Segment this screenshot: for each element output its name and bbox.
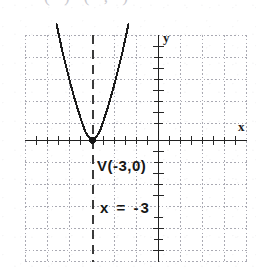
coordinate-plane [0, 0, 256, 273]
graph-figure: ( ) ( , ) [0, 0, 256, 273]
vertex-point [89, 137, 95, 143]
axis-of-symmetry-annotation: x = -3 [100, 199, 151, 216]
grid-lines [25, 35, 247, 262]
y-axis-label: y [163, 30, 170, 46]
vertex-annotation: V(-3,0) [97, 157, 146, 174]
x-axis-label: x [238, 119, 245, 135]
axes [25, 35, 247, 262]
